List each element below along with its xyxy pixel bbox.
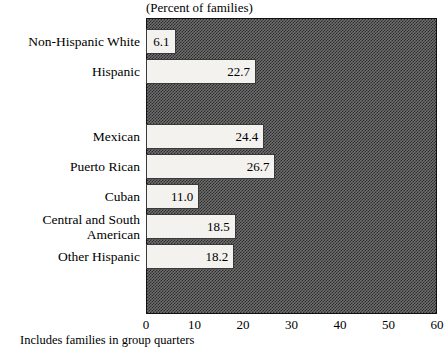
bar: 24.4 — [146, 124, 264, 149]
bar-value-label: 18.2 — [206, 249, 234, 265]
chart-title: (Percent of families) — [146, 0, 253, 16]
x-tick-label: 60 — [431, 317, 444, 333]
category-label: Other Hispanic — [0, 249, 140, 264]
bar: 6.1 — [146, 29, 176, 54]
category-label: Cuban — [0, 189, 140, 204]
x-tick-label: 50 — [382, 317, 395, 333]
category-label: Puerto Rican — [0, 159, 140, 174]
bar-chart-figure: (Percent of families) 6.122.724.426.711.… — [0, 0, 448, 356]
bar: 11.0 — [146, 184, 199, 209]
category-label: Non-Hispanic White — [0, 34, 140, 49]
bar: 18.5 — [146, 214, 236, 239]
x-tick-label: 30 — [285, 317, 298, 333]
bar-value-label: 18.5 — [207, 219, 235, 235]
bar-value-label: 24.4 — [236, 129, 264, 145]
category-label: Central and South American — [0, 212, 140, 242]
x-tick-label: 0 — [143, 317, 150, 333]
bar-value-label: 6.1 — [153, 34, 174, 50]
bar: 26.7 — [146, 154, 275, 179]
category-label: Hispanic — [0, 64, 140, 79]
bar: 18.2 — [146, 244, 234, 269]
category-label: Mexican — [0, 129, 140, 144]
x-tick-label: 40 — [334, 317, 347, 333]
bar-value-label: 22.7 — [227, 64, 255, 80]
bar-value-label: 11.0 — [171, 189, 198, 205]
bar-value-label: 26.7 — [247, 159, 275, 175]
x-tick-label: 10 — [188, 317, 201, 333]
bar: 22.7 — [146, 59, 256, 84]
chart-footnote: Includes families in group quarters — [20, 333, 194, 348]
x-tick-label: 20 — [237, 317, 250, 333]
